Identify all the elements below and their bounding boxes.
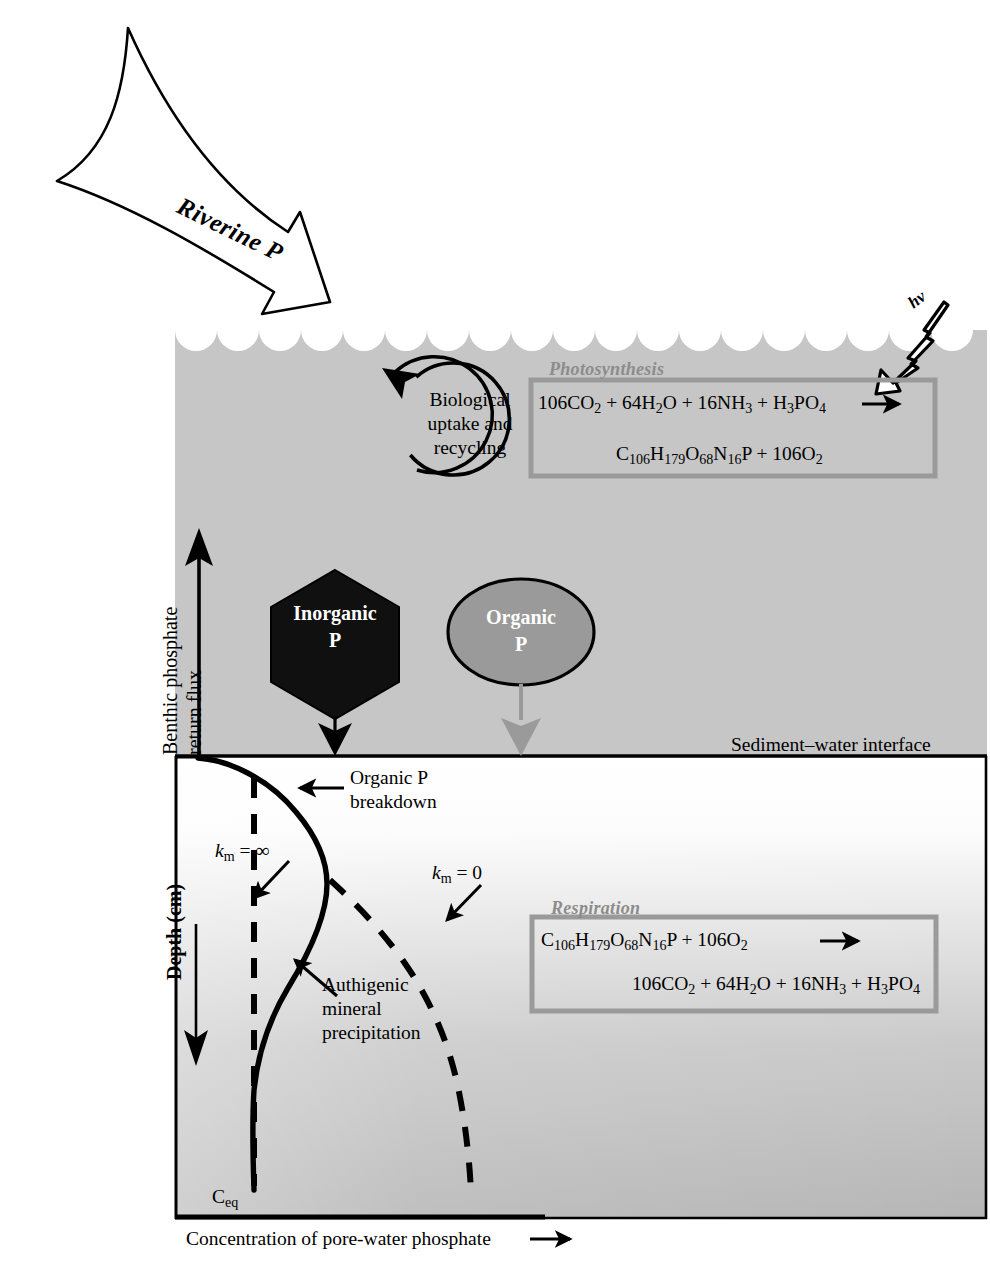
organic-p-label: Organic P — [466, 604, 576, 658]
respiration-equation-reactants: C106H179O68N16P + 106O2 — [541, 929, 748, 953]
inorganic-p-text: Inorganic P — [293, 602, 376, 651]
organic-p-breakdown-label: Organic P breakdown — [350, 766, 437, 814]
respiration-equation-products: 106CO2 + 64H2O + 16NH3 + H3PO4 — [632, 973, 920, 997]
photosynthesis-equation-products: C106H179O68N16P + 106O2 — [616, 443, 823, 467]
biological-uptake-label: Biological uptake and recycling — [410, 388, 530, 461]
respiration-title: Respiration — [551, 899, 640, 918]
sediment-water-interface-label: Sediment–water interface — [731, 734, 931, 755]
benthic-flux-label-line1: Benthic phosphate — [160, 607, 182, 755]
organic-p-text: Organic P — [486, 606, 556, 655]
organic-breakdown-text: Organic P breakdown — [350, 767, 437, 812]
authigenic-precipitation-label: Authigenic mineral precipitation — [322, 973, 421, 1044]
depth-axis-label: Depth (cm) — [164, 884, 186, 980]
bio-uptake-text: Biological uptake and recycling — [427, 389, 512, 458]
km-infinity-label: km = ∞ — [215, 840, 269, 864]
km-zero-label: km = 0 — [432, 862, 482, 886]
concentration-axis-label: Concentration of pore-water phosphate — [186, 1228, 491, 1249]
inorganic-p-label: Inorganic P — [273, 600, 397, 654]
riverine-p-arrow — [57, 28, 330, 314]
benthic-flux-label-line2: return flux — [184, 670, 206, 755]
photosynthesis-equation-reactants: 106CO2 + 64H2O + 16NH3 + H3PO4 — [538, 392, 826, 416]
authigenic-text: Authigenic mineral precipitation — [322, 974, 421, 1043]
ceq-label: Ceq — [212, 1186, 238, 1210]
figure-canvas: Riverine P hv Biological uptake and recy… — [0, 0, 990, 1275]
photosynthesis-title: Photosynthesis — [549, 360, 664, 379]
